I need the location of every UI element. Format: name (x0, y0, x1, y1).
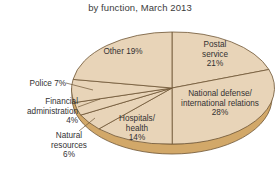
slice-label-hospitals-health: Hospitals/ health 14% (108, 114, 166, 143)
slice-other (73, 32, 172, 88)
slice-label-postal-service: Postal service 21% (186, 40, 244, 69)
pie-chart-figure: by function, March 2013 (0, 0, 280, 172)
slice-label-national-defense: National defense/ international relation… (168, 89, 272, 118)
callout-label-natural-resources: Natural resources 6% (36, 131, 102, 160)
callout-label-financial-administration: Financial administration 4% (0, 97, 78, 126)
callout-label-police: Police 7% (4, 79, 66, 89)
slice-label-other: Other 19% (93, 47, 153, 57)
